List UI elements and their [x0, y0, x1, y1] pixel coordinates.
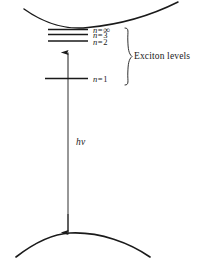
level-num-n-2: 2 [103, 37, 107, 47]
exciton-levels-brace [125, 28, 132, 85]
valence-band-curve [16, 233, 150, 257]
level-num-n-1: 1 [103, 74, 107, 84]
level-label-n-1: n=1 [93, 75, 108, 84]
band-diagram-figure: n=∞ n=3 n=2 n=1 Exciton levels hν [0, 0, 202, 258]
photon-energy-label: hν [76, 138, 85, 148]
exciton-levels-label: Exciton levels [134, 52, 190, 62]
level-label-n-2: n=2 [93, 38, 108, 47]
